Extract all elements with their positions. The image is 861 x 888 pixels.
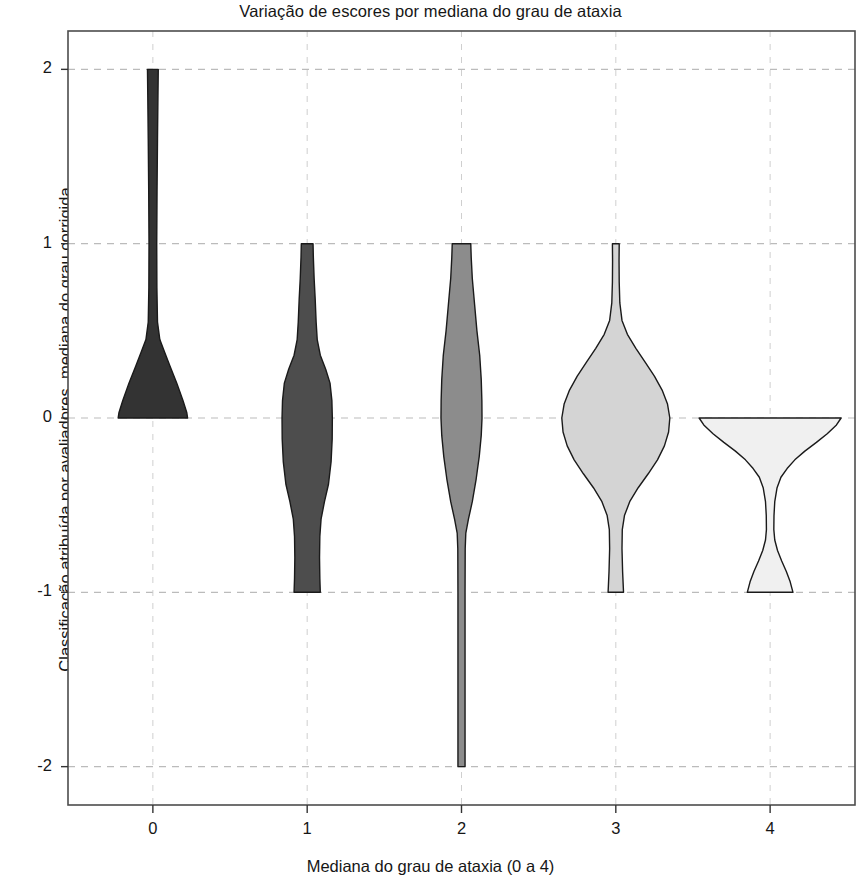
y-tick-label: -2 (12, 756, 52, 775)
x-tick-label: 0 (133, 819, 173, 838)
x-tick-label: 3 (596, 819, 636, 838)
x-tick-label: 1 (287, 819, 327, 838)
plot-area (0, 0, 861, 888)
violin-chart-figure: Variação de escores por mediana do grau … (0, 0, 861, 888)
x-tick-label: 4 (750, 819, 790, 838)
y-tick-label: 0 (12, 407, 52, 426)
y-tick-label: 1 (12, 233, 52, 252)
y-tick-label: 2 (12, 58, 52, 77)
y-tick-label: -1 (12, 581, 52, 600)
x-tick-label: 2 (442, 819, 482, 838)
